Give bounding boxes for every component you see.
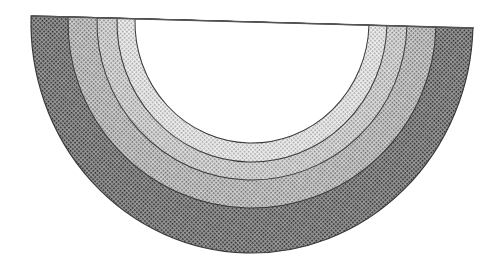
diagram-canvas	[0, 0, 504, 265]
concentric-semicircle-diagram	[0, 0, 504, 265]
bands-group	[25, 16, 473, 259]
